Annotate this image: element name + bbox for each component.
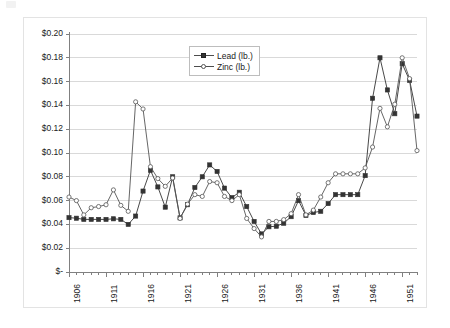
- y-axis-tick-label: $0.04: [24, 219, 63, 228]
- data-point-zinc: [311, 208, 315, 212]
- y-axis-tick-label: $0.14: [24, 100, 63, 109]
- legend-label: Zinc (lb.): [217, 62, 250, 72]
- data-point-zinc: [341, 172, 345, 176]
- y-axis-tick-label: $0.06: [24, 196, 63, 205]
- data-point-zinc: [296, 193, 300, 197]
- y-axis-tick-label: $0.02: [24, 243, 63, 252]
- data-point-lead: [193, 185, 197, 189]
- data-point-zinc: [319, 195, 323, 199]
- data-point-zinc: [185, 202, 189, 206]
- data-point-zinc: [82, 213, 86, 217]
- x-axis-tick-label: 1946: [369, 284, 378, 303]
- data-point-lead: [200, 175, 204, 179]
- data-point-zinc: [304, 213, 308, 217]
- data-point-lead: [67, 216, 71, 220]
- data-point-zinc: [378, 106, 382, 110]
- data-point-lead: [363, 174, 367, 178]
- data-point-zinc: [208, 179, 212, 183]
- data-point-zinc: [385, 125, 389, 129]
- data-point-lead: [141, 189, 145, 193]
- legend-marker-open-circle-icon: [194, 61, 214, 72]
- data-point-lead: [274, 224, 278, 228]
- data-point-zinc: [171, 176, 175, 180]
- data-point-zinc: [126, 209, 130, 213]
- chart-screenshot: $-$0.02$0.04$0.06$0.08$0.10$0.12$0.14$0.…: [0, 0, 450, 328]
- y-axis-tick-label: $0.18: [24, 53, 63, 62]
- data-point-zinc: [104, 203, 108, 207]
- data-point-zinc: [333, 172, 337, 176]
- data-point-zinc: [363, 166, 367, 170]
- data-point-zinc: [370, 145, 374, 149]
- data-point-lead: [252, 219, 256, 223]
- data-point-lead: [378, 56, 382, 60]
- data-point-zinc: [156, 176, 160, 180]
- chart-legend: Lead (lb.)Zinc (lb.): [189, 46, 260, 76]
- data-point-zinc: [119, 203, 123, 207]
- data-point-lead: [245, 204, 249, 208]
- y-axis-tick-label: $0.08: [24, 172, 63, 181]
- y-axis-tick-label: $0.10: [24, 148, 63, 157]
- data-point-zinc: [408, 77, 412, 81]
- data-point-lead: [119, 217, 123, 221]
- data-point-lead: [97, 217, 101, 221]
- data-point-lead: [319, 209, 323, 213]
- x-axis-tick-label: 1921: [184, 284, 193, 303]
- data-point-zinc: [289, 212, 293, 216]
- data-point-zinc: [274, 219, 278, 223]
- data-point-lead: [89, 217, 93, 221]
- data-point-zinc: [193, 193, 197, 197]
- y-axis-tick-label: $0.20: [24, 29, 63, 38]
- legend-entry-zinc: Zinc (lb.): [194, 61, 253, 72]
- data-point-zinc: [178, 216, 182, 220]
- data-point-lead: [348, 193, 352, 197]
- data-point-lead: [156, 185, 160, 189]
- data-point-lead: [415, 114, 419, 118]
- x-axis-tick-label: 1936: [295, 284, 304, 303]
- data-point-zinc: [400, 56, 404, 60]
- data-point-zinc: [148, 165, 152, 169]
- data-point-zinc: [245, 216, 249, 220]
- data-point-lead: [385, 88, 389, 92]
- data-point-zinc: [134, 100, 138, 104]
- y-axis-tick-label: $0.12: [24, 124, 63, 133]
- x-axis-tick-label: 1951: [406, 284, 415, 303]
- y-axis-tick-label: $0.16: [24, 77, 63, 86]
- data-point-lead: [370, 96, 374, 100]
- data-point-zinc: [282, 218, 286, 222]
- x-axis-tick-label: 1916: [147, 284, 156, 303]
- data-point-zinc: [67, 195, 71, 199]
- data-point-zinc: [163, 184, 167, 188]
- data-point-lead: [215, 169, 219, 173]
- data-point-lead: [341, 193, 345, 197]
- x-axis-tick-label: 1926: [221, 284, 230, 303]
- series-line-zinc: [69, 58, 417, 237]
- data-point-zinc: [415, 149, 419, 153]
- x-axis-tick-label: 1931: [258, 284, 267, 303]
- data-point-zinc: [326, 181, 330, 185]
- data-point-zinc: [259, 235, 263, 239]
- data-point-lead: [163, 205, 167, 209]
- legend-marker-filled-square-icon: [194, 50, 214, 61]
- data-point-lead: [134, 214, 138, 218]
- legend-entry-lead: Lead (lb.): [194, 50, 253, 61]
- x-axis-tick-label: 1911: [110, 285, 119, 303]
- data-point-lead: [356, 193, 360, 197]
- legend-label: Lead (lb.): [217, 51, 253, 61]
- data-point-zinc: [222, 194, 226, 198]
- data-point-zinc: [356, 172, 360, 176]
- x-axis-tick-label: 1906: [73, 284, 82, 303]
- data-point-zinc: [74, 199, 78, 203]
- data-point-lead: [104, 217, 108, 221]
- data-point-zinc: [89, 206, 93, 210]
- y-axis-tick-label: $-: [24, 267, 63, 276]
- data-point-zinc: [237, 193, 241, 197]
- data-point-zinc: [230, 199, 234, 203]
- data-point-lead: [326, 201, 330, 205]
- chart-frame: $-$0.02$0.04$0.06$0.08$0.10$0.12$0.14$0.…: [23, 17, 427, 308]
- data-point-lead: [74, 216, 78, 220]
- data-point-lead: [208, 163, 212, 167]
- data-point-lead: [393, 112, 397, 116]
- x-axis-tick-label: 1941: [332, 284, 341, 303]
- data-point-zinc: [348, 172, 352, 176]
- data-point-zinc: [97, 204, 101, 208]
